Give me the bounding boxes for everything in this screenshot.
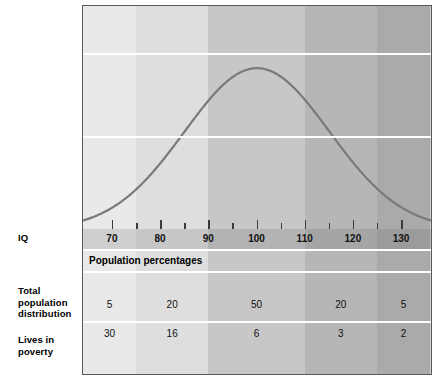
band-3: [305, 6, 377, 374]
tick-90: [208, 220, 210, 229]
band-4: [377, 6, 430, 374]
gridline-1: [83, 136, 431, 138]
tick-130: [401, 220, 403, 229]
tick-110: [305, 220, 307, 229]
value-r1-c3: 3: [338, 328, 344, 339]
row-label-lives-in-poverty: Lives in poverty: [18, 334, 54, 357]
row-label-iq: IQ: [18, 232, 28, 244]
gridline-0: [83, 53, 431, 55]
tick-80: [160, 220, 162, 229]
band-1: [136, 6, 208, 374]
axis-tick-label-120: 120: [345, 233, 362, 244]
tick-75: [136, 223, 138, 229]
axis-tick-label-110: 110: [297, 233, 313, 244]
tick-85: [184, 223, 186, 229]
axis-tick-label-70: 70: [106, 233, 117, 244]
tick-115: [329, 223, 331, 229]
value-r0-c2: 50: [251, 299, 262, 310]
row-label-total-population-distribution: Total population distribution: [18, 285, 71, 320]
band-2: [208, 6, 304, 374]
axis-tick-label-130: 130: [393, 233, 410, 244]
band-0: [83, 6, 136, 374]
gridline-3: [83, 271, 431, 273]
tick-120: [353, 220, 355, 229]
value-r1-c4: 2: [401, 328, 407, 339]
gridline-2: [83, 249, 431, 251]
iq-distribution-chart: 708090100110120130 Population percentage…: [82, 5, 432, 375]
value-r0-c0: 5: [107, 299, 113, 310]
value-r0-c1: 20: [167, 299, 178, 310]
value-r1-c0: 30: [104, 328, 115, 339]
value-r0-c3: 20: [335, 299, 346, 310]
tick-100: [257, 220, 259, 229]
value-r1-c2: 6: [254, 328, 260, 339]
axis-tick-label-100: 100: [248, 233, 265, 244]
axis-tick-label-90: 90: [203, 233, 214, 244]
value-r0-c4: 5: [401, 299, 407, 310]
tick-70: [112, 220, 114, 229]
tick-95: [232, 223, 234, 229]
population-percentages-heading: Population percentages: [89, 255, 202, 266]
value-r1-c1: 16: [167, 328, 178, 339]
tick-105: [281, 223, 283, 229]
tick-125: [377, 223, 379, 229]
axis-tick-label-80: 80: [155, 233, 166, 244]
gridline-4: [83, 321, 431, 323]
